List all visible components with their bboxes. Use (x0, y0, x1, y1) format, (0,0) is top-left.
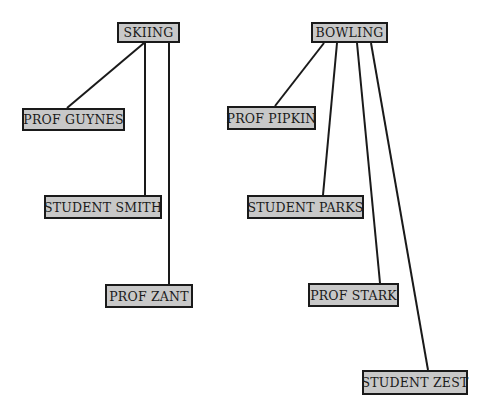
diagram-canvas: SKIINGPROF GUYNESSTUDENT SMITHPROF ZANTB… (0, 0, 482, 409)
child-node: STUDENT PARKS (247, 195, 364, 219)
edge-line (371, 43, 428, 370)
edge-line (275, 43, 324, 106)
child-node: STUDENT ZEST (362, 370, 468, 395)
edge-line (323, 43, 337, 195)
root-node: SKIING (117, 22, 180, 43)
child-node: PROF STARK (308, 283, 399, 307)
root-node: BOWLING (311, 22, 388, 43)
child-node: PROF GUYNES (22, 108, 125, 131)
child-node: STUDENT SMITH (44, 195, 162, 219)
child-node: PROF ZANT (105, 284, 193, 308)
edge-line (67, 43, 144, 108)
child-node: PROF PIPKIN (227, 106, 316, 130)
